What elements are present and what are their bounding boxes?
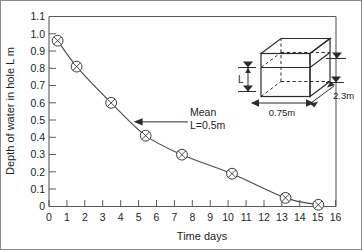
- y-tick-label: 0.3: [30, 148, 45, 160]
- y-tick-label: 0.5: [30, 114, 45, 126]
- data-line: [58, 41, 319, 205]
- x-tick-label: 12: [258, 211, 270, 223]
- depth-dimension: 2.3m: [310, 82, 354, 107]
- x-tick-label: 4: [118, 211, 124, 223]
- y-tick-label: 0.8: [30, 62, 45, 74]
- x-tick-label: 2: [82, 211, 88, 223]
- x-tick-label: 0: [46, 211, 52, 223]
- x-tick-label: 10: [222, 211, 234, 223]
- height-dimension-L: L: [238, 62, 256, 92]
- y-tick-label: 1.0: [30, 28, 45, 40]
- y-tick-label: 0.6: [30, 97, 45, 109]
- x-tick-label: 3: [100, 211, 106, 223]
- x-tick-label: 16: [330, 211, 342, 223]
- box-front-face: [261, 54, 310, 97]
- trench-box-diagram: L 0.75m 2.3m: [238, 39, 354, 119]
- width-dimension-label: 0.75m: [269, 107, 295, 118]
- chart-figure: 1.1 1.0 0.9 0.8 0.7 0.6 0.5 0.4 0.3 0.2 …: [0, 0, 363, 251]
- data-point: [313, 199, 324, 210]
- x-tick-label: 8: [189, 211, 195, 223]
- data-point: [177, 149, 188, 160]
- x-tick-label: 11: [241, 211, 252, 223]
- y-tick-label: 0.9: [30, 45, 45, 57]
- data-point: [71, 61, 82, 72]
- x-tick-label: 13: [276, 211, 288, 223]
- data-point: [280, 192, 291, 203]
- data-point: [106, 97, 117, 108]
- y-tick-label: 0.2: [30, 166, 45, 178]
- y-tick-label: 0.1: [30, 183, 45, 195]
- box-water-level-hidden: [261, 53, 281, 68]
- mean-arrow-head: [134, 118, 143, 125]
- x-tick-label: 15: [312, 211, 324, 223]
- x-tick-label: 9: [207, 211, 213, 223]
- mean-annotation: Mean L=0.5m: [134, 106, 226, 131]
- width-dimension: 0.75m: [251, 99, 314, 118]
- mean-annotation-line2: L=0.5m: [190, 119, 226, 131]
- y-axis-title: Depth of water in hole L m: [4, 47, 16, 175]
- x-axis-tick-labels: 0 1 2 3 4 5 6 7 8 9 10 11 12 13 14 15 16: [46, 211, 342, 223]
- box-right-face: [310, 39, 330, 97]
- x-tick-label: 5: [136, 211, 142, 223]
- y-tick-label: 0: [39, 200, 45, 212]
- y-tick-label: 1.1: [30, 10, 45, 22]
- y-tick-label: 0.4: [30, 131, 45, 143]
- box-hidden-edge: [261, 82, 281, 97]
- x-axis-ticks: [49, 200, 336, 207]
- box-water-level-line-right: [310, 53, 330, 68]
- mean-annotation-line1: Mean: [190, 106, 216, 118]
- data-point: [227, 168, 238, 179]
- height-dimension-label: L: [238, 74, 244, 85]
- x-tick-label: 7: [171, 211, 177, 223]
- x-axis-title: Time days: [177, 230, 228, 242]
- data-point: [140, 130, 151, 141]
- y-axis-tick-labels: 1.1 1.0 0.9 0.8 0.7 0.6 0.5 0.4 0.3 0.2 …: [30, 10, 45, 212]
- data-markers: [52, 35, 323, 210]
- x-tick-label: 6: [154, 211, 160, 223]
- chart-canvas: 1.1 1.0 0.9 0.8 0.7 0.6 0.5 0.4 0.3 0.2 …: [0, 0, 363, 251]
- data-point: [52, 35, 63, 46]
- depth-dimension-label: 2.3m: [333, 90, 354, 101]
- y-tick-label: 0.7: [30, 79, 45, 91]
- x-tick-label: 1: [64, 211, 70, 223]
- x-tick-label: 14: [294, 211, 306, 223]
